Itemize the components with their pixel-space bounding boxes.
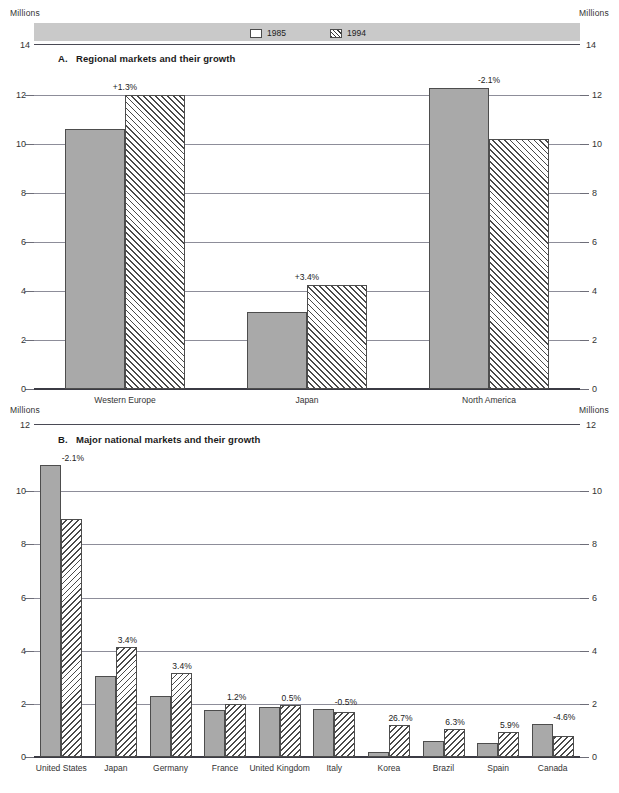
axis-tick [580,704,589,705]
legend-item-1994[interactable]: 1994 [330,28,366,38]
growth-label-spain: 5.9% [500,720,519,730]
bar-1994-spain [498,732,519,757]
axis-tick [580,95,589,96]
growth-label-brazil: 6.3% [445,717,464,727]
mid-rule-12 [34,424,580,425]
bar-1994-germany [171,673,192,757]
y-axis-tick-label-right: 2 [592,699,616,709]
section-a-marker: A. [58,53,68,64]
axis-tick [25,704,34,705]
solid-square-swatch-icon [250,29,262,38]
bar-1994-brazil [444,729,465,757]
gridline [34,95,580,96]
bar-1994-korea [389,725,410,757]
gridline [34,598,580,599]
axis-tick [580,291,589,292]
growth-label-canada: -4.6% [553,712,575,722]
category-label-japan: Japan [104,763,127,773]
y-axis-tick-label-right: 2 [592,335,616,345]
legend-label-1994: 1994 [347,28,366,38]
legend-item-1985[interactable]: 1985 [250,28,286,38]
category-label-brazil: Brazil [433,763,454,773]
growth-label-north-america: -2.1% [478,75,500,85]
top-left-unit-label: Millions [10,8,40,18]
category-label-japan: Japan [295,395,318,405]
section-a-heading: Regional markets and their growth [76,53,236,64]
bar-1985-france [204,710,225,757]
y-axis-tick-label-right: 8 [592,188,616,198]
mid-left-unit-label: Millions [10,405,40,415]
bar-1994-japan [307,285,367,389]
axis-tick [25,193,34,194]
axis-tick [25,598,34,599]
axis-tick [580,340,589,341]
y-axis-tick-label-left: 8 [8,188,26,198]
axis-tick [25,544,34,545]
category-label-spain: Spain [487,763,509,773]
bar-1994-italy [334,712,355,757]
category-label-france: France [212,763,238,773]
growth-label-italy: -0.5% [335,697,357,707]
axis-tick [25,757,34,758]
y-axis-tick-label-left: 12 [8,90,26,100]
mid-axis-label-left-12: 12 [8,420,30,430]
axis-tick [25,95,34,96]
bar-1985-japan [95,676,116,757]
bar-1985-korea [368,752,389,757]
axis-tick [580,651,589,652]
y-axis-tick-label-right: 10 [592,139,616,149]
bar-1994-north-america [489,139,549,389]
axis-tick [580,144,589,145]
growth-label-france: 1.2% [227,692,246,702]
category-label-western-europe: Western Europe [94,395,155,405]
gridline [34,544,580,545]
y-axis-tick-label-right: 0 [592,384,616,394]
hatched-square-swatch-icon [330,29,342,38]
y-axis-tick-label-right: 4 [592,646,616,656]
gridline [34,491,580,492]
y-axis-tick-label-right: 10 [592,486,616,496]
top-axis-label-right-14: 14 [586,40,610,50]
axis-tick [25,340,34,341]
y-axis-tick-label-left: 2 [8,699,26,709]
bar-1985-spain [477,743,498,757]
category-label-italy: Italy [327,763,343,773]
y-axis-tick-label-left: 10 [8,486,26,496]
growth-label-united-kingdom: 0.5% [282,693,301,703]
axis-tick [25,491,34,492]
category-label-united-kingdom: United Kingdom [249,763,309,773]
y-axis-tick-label-left: 4 [8,646,26,656]
growth-label-japan: +3.4% [295,272,319,282]
axis-tick [580,757,589,758]
y-axis-tick-label-left: 0 [8,384,26,394]
top-axis-label-left-14: 14 [8,40,30,50]
axis-tick [580,544,589,545]
y-axis-tick-label-left: 10 [8,139,26,149]
bar-1994-canada [553,736,574,757]
bar-1994-western-europe [125,95,185,389]
legend-label-1985: 1985 [267,28,286,38]
axis-tick [25,291,34,292]
y-axis-tick-label-left: 2 [8,335,26,345]
chart-a-plot-area [34,95,580,389]
y-axis-tick-label-left: 4 [8,286,26,296]
y-axis-tick-label-right: 12 [592,90,616,100]
axis-tick [25,389,34,390]
bar-1985-canada [532,724,553,757]
bar-1985-united-kingdom [259,707,280,757]
bar-1985-germany [150,696,171,757]
axis-tick [580,193,589,194]
growth-label-western-europe: +1.3% [113,82,137,92]
y-axis-tick-label-left: 0 [8,752,26,762]
y-axis-tick-label-right: 8 [592,539,616,549]
bar-1985-japan [247,312,307,389]
axis-tick [25,242,34,243]
bar-1985-brazil [423,741,444,757]
bar-1994-france [225,704,246,757]
y-axis-tick-label-right: 0 [592,752,616,762]
growth-label-japan: 3.4% [118,635,137,645]
bar-1994-united-kingdom [280,705,301,757]
axis-tick [580,598,589,599]
category-label-canada: Canada [538,763,568,773]
growth-label-united-states: -2.1% [62,453,84,463]
